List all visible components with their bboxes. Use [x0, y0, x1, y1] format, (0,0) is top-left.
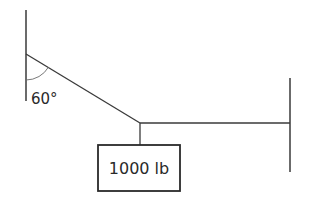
angle-label: 60°: [31, 90, 58, 108]
force-diagram: 60° 1000 lb: [0, 0, 312, 211]
inclined-cable: [26, 54, 140, 123]
weight-label: 1000 lb: [109, 159, 169, 178]
angle-arc: [26, 67, 49, 80]
